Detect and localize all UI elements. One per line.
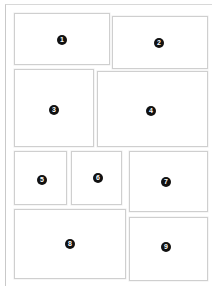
box-number-badge: 4 — [146, 106, 156, 116]
box-number-badge: 5 — [37, 175, 47, 185]
box-number-badge: 9 — [161, 242, 171, 252]
box-number-badge: 7 — [161, 177, 171, 187]
box-number-badge: 8 — [65, 239, 75, 249]
box-number-badge: 6 — [93, 173, 103, 183]
layout-canvas: 123456789 — [0, 0, 216, 293]
box-number-badge: 3 — [49, 105, 59, 115]
box-number-badge: 2 — [154, 38, 164, 48]
box-number-badge: 1 — [57, 35, 67, 45]
page-root: 123456789 — [0, 0, 216, 293]
